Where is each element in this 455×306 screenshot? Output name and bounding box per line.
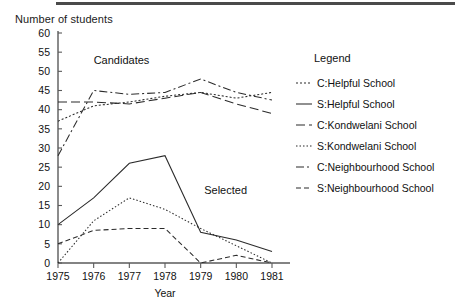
legend-line-swatch (296, 140, 312, 152)
x-tick-label: 1981 (260, 270, 284, 282)
annotation-group: CandidatesSelected (94, 54, 247, 196)
x-tick-label: 1979 (189, 270, 213, 282)
x-axis-label: Year (154, 287, 176, 299)
y-tick-label: 25 (38, 161, 50, 173)
legend-item-label: S:Neighbourhood School (317, 182, 434, 194)
legend-title: Legend (314, 52, 455, 64)
legend-line-swatch (296, 119, 312, 131)
legend-item: C:Neighbourhood School (296, 156, 455, 177)
chart-figure: Number of students 051015202530354045505… (0, 0, 455, 306)
y-tick-label: 15 (38, 199, 50, 211)
series-line (58, 198, 272, 263)
x-tick-label: 1976 (82, 270, 106, 282)
y-tick-label: 60 (38, 27, 50, 39)
y-tick-label: 20 (38, 180, 50, 192)
plot-annotation: Candidates (94, 54, 150, 66)
legend-item-label: C:Neighbourhood School (317, 161, 434, 173)
series-line (58, 92, 272, 113)
x-tick-label: 1975 (46, 270, 70, 282)
legend-item: C:Helpful School (296, 72, 455, 93)
legend-item: S:Neighbourhood School (296, 177, 455, 198)
legend-item-label: C:Helpful School (317, 77, 395, 89)
y-tick-label: 55 (38, 46, 50, 58)
y-tick-label: 10 (38, 218, 50, 230)
x-tick-label: 1977 (118, 270, 142, 282)
legend: Legend C:Helpful SchoolS:Helpful SchoolC… (296, 52, 455, 198)
y-tick-label: 35 (38, 123, 50, 135)
legend-item-label: C:Kondwelani School (317, 119, 417, 131)
x-tick-label: 1978 (153, 270, 177, 282)
y-axis-group: 051015202530354045505560 (38, 27, 62, 269)
legend-item-label: S:Helpful School (317, 98, 395, 110)
y-tick-label: 5 (44, 238, 50, 250)
legend-item: S:Kondwelani School (296, 135, 455, 156)
legend-line-swatch (296, 77, 312, 89)
series-line (58, 79, 272, 156)
series-line (58, 229, 272, 264)
legend-rows: C:Helpful SchoolS:Helpful SchoolC:Kondwe… (296, 72, 455, 198)
y-tick-label: 40 (38, 103, 50, 115)
legend-line-swatch (296, 98, 312, 110)
y-tick-label: 50 (38, 65, 50, 77)
legend-item: S:Helpful School (296, 93, 455, 114)
series-group (58, 79, 272, 263)
y-tick-label: 30 (38, 142, 50, 154)
legend-item: C:Kondwelani School (296, 114, 455, 135)
y-tick-label: 0 (44, 257, 50, 269)
legend-line-swatch (296, 161, 312, 173)
y-tick-label: 45 (38, 84, 50, 96)
x-tick-label: 1980 (225, 270, 249, 282)
legend-line-swatch (296, 182, 312, 194)
x-axis-group: 1975197619771978197919801981Year (46, 263, 290, 299)
plot-annotation: Selected (204, 184, 247, 196)
series-line (58, 156, 272, 252)
legend-item-label: S:Kondwelani School (317, 140, 416, 152)
